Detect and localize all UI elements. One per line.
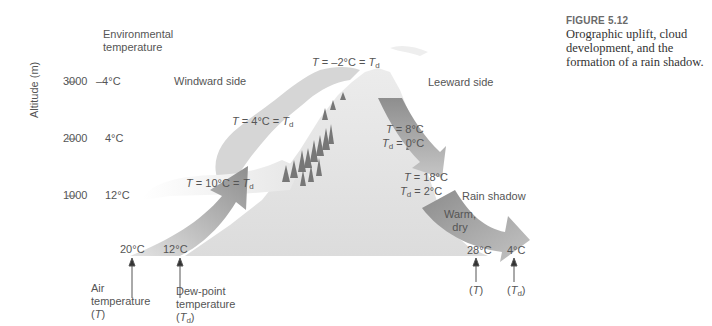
tick-3000-temp: –4°C [96, 75, 121, 88]
tick-1000: 1000 [63, 189, 87, 202]
figure-caption: FIGURE 5.12 Orographic uplift, cloud dev… [566, 15, 712, 69]
air-temp-value: 20°C [120, 243, 145, 256]
warm-dry-label: Warm, dry [440, 208, 480, 234]
leeward-side-label: Leeward side [428, 76, 493, 89]
lee-Td-label: (Td) [507, 284, 526, 300]
lee-air-value: 28°C [467, 244, 492, 257]
cloud-wisp-top [390, 46, 428, 56]
tick-1000-temp: 12°C [105, 189, 130, 202]
label-top-cloud: T = –2°C = Td [312, 56, 380, 72]
tick-2000-temp: 4°C [105, 132, 123, 145]
lee-T-label: (T) [469, 284, 483, 297]
label-mid-cloud: T = 4°C = Td [232, 115, 293, 131]
figure-number: FIGURE 5.12 [566, 15, 712, 26]
environmental-temp-header: Environmental temperature [103, 28, 173, 54]
leeward-upper-T: T = 8°C [386, 123, 424, 136]
leeward-lower-T: T = 18°C [404, 171, 448, 184]
dew-temp-value: 12°C [163, 243, 188, 256]
dew-point-label: Dew-point temperature (Td) [176, 285, 235, 326]
tick-3000: 3000 [63, 75, 87, 88]
label-low-cloud: T = 10°C = Td [186, 177, 254, 193]
lee-dew-value: 4°C [507, 244, 525, 257]
windward-side-label: Windward side [174, 75, 246, 88]
altitude-axis-label: Altitude (m) [28, 62, 40, 118]
leeward-upper-Td: Td = 0°C [382, 137, 424, 153]
air-temperature-label: Air temperature (T) [91, 282, 150, 321]
rain-shadow-label: Rain shadow [462, 190, 526, 203]
tick-2000: 2000 [63, 132, 87, 145]
figure-caption-text: Orographic uplift, cloud development, an… [566, 27, 712, 69]
leeward-lower-Td: Td = 2°C [400, 185, 442, 201]
